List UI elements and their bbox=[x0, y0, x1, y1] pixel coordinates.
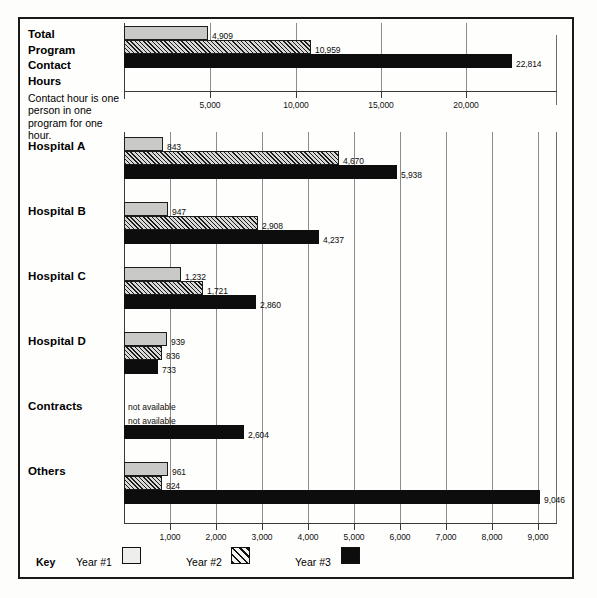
bottom-axis-tick-1000 bbox=[170, 523, 171, 530]
top-axis-tick-20000 bbox=[466, 91, 467, 98]
bar-hospital-a-year2 bbox=[124, 151, 339, 165]
bottom-gridline-6000 bbox=[400, 132, 401, 524]
legend-label-year1: Year #1 bbox=[76, 556, 112, 568]
bottom-axis-label-3000: 3,000 bbox=[252, 532, 273, 542]
chart-page: Total Program Contact Hours Contact hour… bbox=[0, 0, 597, 598]
bar-hospital-c-year1 bbox=[124, 267, 181, 281]
group-label-others: Others bbox=[28, 465, 66, 477]
legend-swatch-year1 bbox=[122, 547, 141, 564]
bar-hospital-a-year3 bbox=[124, 165, 397, 179]
bottom-axis-tick-8000 bbox=[492, 523, 493, 530]
top-axis-label-15000: 15,000 bbox=[368, 100, 393, 110]
top-axis-tick-5000 bbox=[210, 91, 211, 98]
bottom-gridline-8000 bbox=[492, 132, 493, 524]
bar-value-hospital-b-year3: 4,237 bbox=[323, 235, 344, 245]
group-title-total: Total Program Contact Hours bbox=[28, 27, 124, 89]
legend-swatch-year3 bbox=[341, 547, 360, 564]
group-label-hospital-c: Hospital C bbox=[28, 270, 86, 282]
bar-hospital-a-year1 bbox=[124, 137, 163, 151]
bar-hospital-d-year1 bbox=[124, 332, 167, 346]
bar-value-hospital-a-year3: 5,938 bbox=[401, 170, 422, 180]
top-axis-tick-15000 bbox=[381, 91, 382, 98]
bar-hospital-b-year2 bbox=[124, 216, 258, 230]
bottom-axis-label-8000: 8,000 bbox=[482, 532, 503, 542]
bottom-axis-label-2000: 2,000 bbox=[206, 532, 227, 542]
group-label-contracts: Contracts bbox=[28, 400, 83, 412]
bottom-axis-tick-6000 bbox=[400, 523, 401, 530]
group-title-line-2: Program bbox=[28, 43, 124, 59]
bottom-right-rule bbox=[556, 132, 557, 524]
bar-hospital-b-year1 bbox=[124, 202, 168, 216]
bottom-axis-label-7000: 7,000 bbox=[436, 532, 457, 542]
bar-value-hospital-c-year3: 2,860 bbox=[260, 300, 281, 310]
bar-others-year2 bbox=[124, 476, 162, 490]
bar-others-year3 bbox=[124, 490, 540, 504]
bottom-axis-label-5000: 5,000 bbox=[344, 532, 365, 542]
bar-hospital-d-year3 bbox=[124, 360, 158, 374]
bar-value-total-year3: 22,814 bbox=[516, 59, 541, 69]
top-axis-label-10000: 10,000 bbox=[283, 100, 308, 110]
bar-others-year1 bbox=[124, 462, 168, 476]
bar-hospital-d-year2 bbox=[124, 346, 162, 360]
bar-hospital-b-year3 bbox=[124, 230, 319, 244]
bottom-axis-tick-7000 bbox=[446, 523, 447, 530]
bar-total-year3 bbox=[124, 54, 512, 68]
bar-value-others-year3: 9,046 bbox=[544, 495, 565, 505]
bottom-axis-tick-9000 bbox=[538, 523, 539, 530]
top-axis-tick-10000 bbox=[296, 91, 297, 98]
bottom-gridline-4000 bbox=[308, 132, 309, 524]
top-axis-line bbox=[124, 91, 557, 92]
bottom-gridline-7000 bbox=[446, 132, 447, 524]
bottom-gridline-1000 bbox=[170, 132, 171, 524]
bar-hospital-c-year3 bbox=[124, 295, 256, 309]
top-axis-label-20000: 20,000 bbox=[453, 100, 478, 110]
bar-value-contracts-year1: not available bbox=[128, 402, 176, 412]
top-right-rule bbox=[556, 35, 557, 105]
legend-key-word: Key bbox=[36, 556, 55, 568]
bottom-axis-label-4000: 4,000 bbox=[298, 532, 319, 542]
bottom-axis-tick-2000 bbox=[216, 523, 217, 530]
chart-frame: Total Program Contact Hours Contact hour… bbox=[18, 17, 574, 579]
bar-value-contracts-year3: 2,604 bbox=[248, 430, 269, 440]
group-label-hospital-d: Hospital D bbox=[28, 335, 86, 347]
bar-value-others-year1: 961 bbox=[172, 467, 186, 477]
group-title-line-4: Hours bbox=[28, 74, 124, 90]
legend-swatch-year2 bbox=[231, 547, 250, 564]
group-title-line-1: Total bbox=[28, 27, 124, 43]
bar-value-hospital-d-year1: 939 bbox=[171, 337, 185, 347]
group-title-line-3: Contact bbox=[28, 58, 124, 74]
top-axis-label-5000: 5,000 bbox=[200, 100, 221, 110]
bottom-axis-label-1000: 1,000 bbox=[160, 532, 181, 542]
bottom-gridline-2000 bbox=[216, 132, 217, 524]
bar-contracts-year3 bbox=[124, 425, 244, 439]
bottom-axis-label-6000: 6,000 bbox=[390, 532, 411, 542]
bar-total-year2 bbox=[124, 40, 311, 54]
bar-value-hospital-d-year3: 733 bbox=[162, 365, 176, 375]
bar-hospital-c-year2 bbox=[124, 281, 203, 295]
bar-value-hospital-d-year2: 836 bbox=[166, 351, 180, 361]
contact-hour-note: Contact hour is one person in one progra… bbox=[28, 92, 124, 142]
bottom-axis-tick-5000 bbox=[354, 523, 355, 530]
group-label-hospital-b: Hospital B bbox=[28, 205, 86, 217]
bar-total-year1 bbox=[124, 26, 208, 40]
bottom-axis-tick-4000 bbox=[308, 523, 309, 530]
bottom-axis-tick-3000 bbox=[262, 523, 263, 530]
bottom-gridline-9000 bbox=[538, 132, 539, 524]
bottom-gridline-3000 bbox=[262, 132, 263, 524]
legend-label-year2: Year #2 bbox=[186, 556, 222, 568]
legend-label-year3: Year #3 bbox=[295, 556, 331, 568]
group-label-hospital-a: Hospital A bbox=[28, 140, 85, 152]
bottom-gridline-5000 bbox=[354, 132, 355, 524]
bottom-axis-label-9000: 9,000 bbox=[528, 532, 549, 542]
